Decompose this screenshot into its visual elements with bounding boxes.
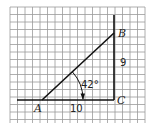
angle-label: 42° [81,79,99,90]
side-label-bc: 9 [120,57,126,68]
vertex-label-c: C [117,94,126,107]
side-label-ac: 10 [70,103,83,114]
vertex-label-b: B [117,27,126,40]
triangle-diagram: A B C 42° 9 10 [0,0,150,131]
hypotenuse-ab [42,33,114,100]
vertex-label-a: A [33,102,42,115]
